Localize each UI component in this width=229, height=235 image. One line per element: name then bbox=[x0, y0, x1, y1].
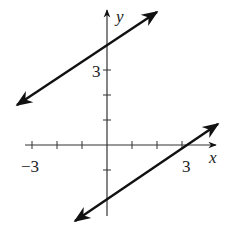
lower-line bbox=[75, 124, 218, 221]
upper-line bbox=[17, 12, 157, 105]
coordinate-plane: −3 3 3 x y bbox=[0, 0, 229, 235]
y-tick-label-3: 3 bbox=[92, 62, 101, 81]
y-axis-label: y bbox=[114, 7, 124, 26]
x-tick-label-3: 3 bbox=[182, 157, 191, 176]
x-tick-label-neg3: −3 bbox=[21, 157, 39, 176]
x-axis-label: x bbox=[208, 148, 217, 167]
